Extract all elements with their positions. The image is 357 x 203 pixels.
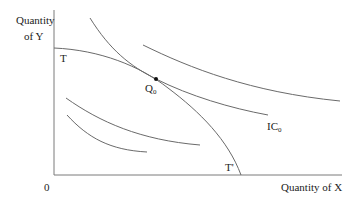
indifference-curve-ic0	[90, 18, 268, 115]
ic0-label: IC0	[267, 120, 282, 136]
production-frontier-curve	[54, 48, 241, 175]
indifference-curve-lower-2	[67, 115, 147, 152]
point-q0-label: Q0	[145, 82, 156, 98]
ic-label-subscript: 0	[278, 126, 282, 134]
y-axis-label-line1: Quantity	[16, 14, 55, 26]
point-label-text: Q	[145, 82, 153, 94]
frontier-start-label: T	[60, 52, 67, 64]
point-label-subscript: 0	[153, 88, 157, 96]
x-axis-label: Quantity of X	[281, 181, 342, 193]
y-axis-label-line2: of Y	[24, 30, 43, 42]
indifference-curve-higher	[143, 45, 340, 101]
indifference-curve-lower-1	[66, 98, 200, 145]
tangency-point-q0	[154, 77, 158, 81]
origin-label: 0	[44, 181, 50, 193]
diagram-canvas	[0, 0, 357, 203]
ic-label-text: IC	[267, 120, 278, 132]
frontier-end-label: T'	[225, 161, 234, 173]
